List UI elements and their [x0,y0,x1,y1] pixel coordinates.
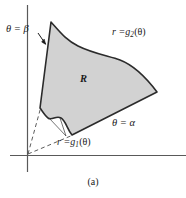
label-theta-equals-alpha: θ = α [112,118,135,129]
label-g1-arg: (θ) [79,136,91,147]
label-g2-r: r = [112,26,125,37]
label-g2-arg: (θ) [134,26,146,37]
label-g1-r: r = [57,136,70,147]
label-outer-curve-r-equals-g2-theta: r =g2(θ) [112,27,146,39]
label-theta-equals-beta: θ = β [6,24,29,35]
arrow-theta-beta [38,33,46,45]
dashed-ray-beta [28,109,41,155]
figure-caption: (a) [0,176,186,187]
polar-region-figure: θ = β r =g2(θ) R θ = α r =g1(θ) (a) [0,0,186,198]
label-region-R: R [80,74,87,85]
label-inner-curve-r-equals-g1-theta: r =g1(θ) [57,137,91,149]
